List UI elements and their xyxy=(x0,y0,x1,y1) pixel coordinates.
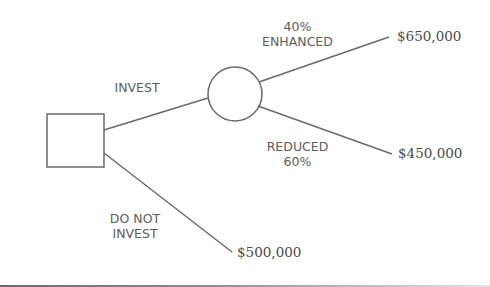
do-not-invest-label: DO NOT INVEST xyxy=(100,211,170,241)
decision-node xyxy=(47,114,104,167)
reduced-name: REDUCED xyxy=(260,139,335,154)
invest-label: INVEST xyxy=(112,80,162,95)
do-not-invest-line2: INVEST xyxy=(100,226,170,241)
enhanced-label: 40% ENHANCED xyxy=(260,19,335,49)
reduced-probability: 60% xyxy=(260,154,335,169)
do-not-invest-line1: DO NOT xyxy=(100,211,170,226)
invest-branch xyxy=(104,98,208,130)
enhanced-outcome: $650,000 xyxy=(397,28,461,44)
enhanced-name: ENHANCED xyxy=(260,34,335,49)
enhanced-probability: 40% xyxy=(260,19,335,34)
do-not-invest-outcome: $500,000 xyxy=(237,244,301,260)
reduced-label: REDUCED 60% xyxy=(260,139,335,169)
reduced-outcome: $450,000 xyxy=(398,145,462,161)
chance-node xyxy=(208,67,262,121)
